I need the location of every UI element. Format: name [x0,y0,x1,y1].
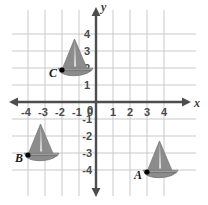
point-a-marker [144,169,149,174]
x-tick-2: 2 [127,106,133,118]
graph-svg: x y -4 -3 -2 -1 0 1 2 3 4 4 3 2 1 0 -1 -… [0,0,208,205]
sailboat-b: B [14,124,59,165]
x-tick--2: -2 [55,106,65,118]
y-tick-3: 3 [84,45,90,57]
point-a-label: A [133,168,142,182]
point-b-marker [25,152,30,157]
x-tick-labels: -4 -3 -2 -1 0 1 2 3 4 [21,106,168,118]
sailboat-a: A [133,141,178,182]
x-axis-arrow-left [9,98,18,107]
x-tick--3: -3 [38,106,48,118]
point-c-label: C [49,66,58,80]
x-tick--4: -4 [21,106,32,118]
x-tick--1: -1 [72,106,82,118]
coordinate-plane-figure: x y -4 -3 -2 -1 0 1 2 3 4 4 3 2 1 0 -1 -… [0,0,208,205]
y-axis-label: y [99,0,107,14]
x-axis-arrow-right [182,98,191,107]
x-axis-label: x [193,96,200,110]
y-axis-arrow-up [92,7,101,16]
y-tick--2: -2 [82,130,92,142]
point-c-marker [59,67,64,72]
y-tick--3: -3 [82,147,92,159]
y-tick-4: 4 [84,28,91,40]
y-tick--1: -1 [82,113,92,125]
y-tick--4: -4 [82,164,93,176]
x-tick-4: 4 [161,106,168,118]
x-tick-1: 1 [110,106,116,118]
x-tick-3: 3 [144,106,150,118]
y-tick-1: 1 [84,79,90,91]
y-axis-arrow-down [92,188,101,197]
point-b-label: B [14,151,23,165]
